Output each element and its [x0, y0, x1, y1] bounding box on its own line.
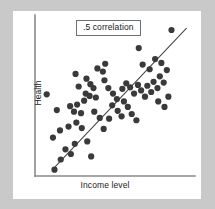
- data-point: [161, 79, 167, 85]
- data-point: [140, 61, 146, 67]
- data-point: [133, 117, 139, 123]
- data-point: [97, 115, 103, 121]
- data-point: [135, 82, 141, 88]
- data-point: [161, 104, 167, 110]
- data-point: [83, 76, 89, 82]
- data-point: [72, 71, 78, 77]
- scatter-plot-figure: Health Income level .5 correlation: [0, 0, 215, 209]
- data-point: [91, 109, 97, 115]
- data-point: [100, 68, 106, 74]
- data-point: [165, 94, 171, 100]
- data-point: [129, 111, 135, 117]
- data-point: [127, 84, 133, 90]
- data-point: [84, 138, 90, 144]
- data-point: [68, 151, 74, 157]
- data-point: [50, 134, 56, 140]
- data-point: [57, 127, 63, 133]
- data-point: [44, 91, 50, 97]
- data-point: [94, 65, 100, 71]
- data-point: [105, 85, 111, 91]
- data-point: [125, 104, 131, 110]
- data-point: [148, 89, 154, 95]
- data-point: [88, 153, 94, 159]
- data-points-group: [44, 27, 175, 173]
- data-point: [158, 60, 164, 66]
- data-point: [110, 90, 116, 96]
- data-point: [164, 67, 170, 73]
- data-point: [118, 113, 124, 119]
- data-point: [101, 77, 107, 83]
- data-point: [54, 107, 60, 113]
- data-point: [157, 73, 163, 79]
- data-point: [109, 102, 115, 108]
- data-point: [51, 167, 57, 173]
- data-point: [58, 156, 64, 162]
- data-point: [147, 66, 153, 72]
- data-point: [78, 110, 84, 116]
- correlation-annotation-box: .5 correlation: [76, 20, 141, 36]
- data-point: [65, 123, 71, 129]
- data-point: [106, 116, 112, 122]
- data-point: [138, 87, 144, 93]
- data-point: [87, 81, 93, 87]
- data-point: [71, 109, 77, 115]
- y-axis-label: Health: [33, 63, 43, 123]
- data-point: [93, 94, 99, 100]
- data-point: [76, 83, 82, 89]
- data-point: [136, 45, 142, 51]
- data-point: [131, 90, 137, 96]
- data-point: [102, 61, 108, 67]
- data-point: [81, 98, 87, 104]
- data-point: [74, 101, 80, 107]
- data-point: [72, 141, 78, 147]
- x-axis-label: Income level: [35, 180, 175, 190]
- data-point: [155, 98, 161, 104]
- data-point: [87, 93, 93, 99]
- data-point: [119, 86, 125, 92]
- data-point: [79, 125, 85, 131]
- data-point: [115, 108, 121, 114]
- figure-card: Health Income level .5 correlation: [13, 11, 201, 199]
- data-point: [67, 103, 73, 109]
- data-point: [168, 27, 174, 33]
- data-point: [114, 96, 120, 102]
- data-point: [154, 85, 160, 91]
- data-point: [73, 120, 79, 126]
- data-point: [144, 83, 150, 89]
- data-point: [121, 98, 127, 104]
- data-point: [142, 94, 148, 100]
- data-point: [150, 79, 156, 85]
- data-point: [62, 146, 68, 152]
- data-point: [101, 126, 107, 132]
- data-point: [152, 56, 158, 62]
